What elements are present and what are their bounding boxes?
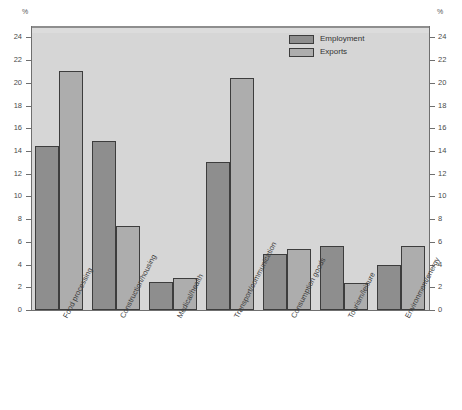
y-ticklabel-left-14: 14 (14, 147, 22, 155)
y-axis-unit-right: % (437, 8, 443, 15)
legend-label-exports: Exports (320, 48, 347, 56)
bar-employment-6[interactable] (320, 246, 344, 310)
y-ticklabel-right-22: 22 (438, 56, 446, 64)
y-ticklabel-left-22: 22 (14, 56, 22, 64)
y-ticklabel-left-6: 6 (18, 238, 22, 246)
y-ticklabel-left-20: 20 (14, 79, 22, 87)
x-axis-baseline (31, 310, 430, 311)
y-ticklabel-left-8: 8 (18, 215, 22, 223)
bar-exports-4[interactable] (230, 78, 254, 310)
bar-group-4 (206, 78, 254, 310)
bar-employment-4[interactable] (206, 162, 230, 310)
y-tick-right-10 (430, 196, 435, 197)
y-tick-right-16 (430, 128, 435, 129)
y-axis-unit-left: % (22, 8, 28, 15)
y-tick-right-0 (430, 310, 435, 311)
y-ticklabel-right-16: 16 (438, 124, 446, 132)
y-ticklabel-right-20: 20 (438, 79, 446, 87)
y-ticklabel-left-0: 0 (18, 306, 22, 314)
bar-group-1 (35, 71, 83, 310)
y-tick-right-8 (430, 219, 435, 220)
y-ticklabel-left-16: 16 (14, 124, 22, 132)
legend-item-exports: Exports (289, 46, 364, 58)
y-ticklabel-left-18: 18 (14, 102, 22, 110)
y-ticklabel-right-24: 24 (438, 33, 446, 41)
y-tick-right-24 (430, 37, 435, 38)
y-tick-right-2 (430, 287, 435, 288)
bar-exports-1[interactable] (59, 71, 83, 310)
y-ticklabel-right-12: 12 (438, 170, 446, 178)
y-ticklabel-right-18: 18 (438, 102, 446, 110)
legend-item-employment: Employment (289, 33, 364, 45)
y-tick-right-20 (430, 83, 435, 84)
legend-swatch-exports-icon (289, 48, 314, 57)
y-ticklabel-left-2: 2 (18, 283, 22, 291)
y-tick-right-12 (430, 174, 435, 175)
y-tick-right-22 (430, 60, 435, 61)
y-ticklabel-right-6: 6 (438, 238, 442, 246)
y-ticklabel-right-8: 8 (438, 215, 442, 223)
y-tick-right-14 (430, 151, 435, 152)
y-tick-left-0 (26, 310, 31, 311)
y-tick-right-6 (430, 242, 435, 243)
y-ticklabel-left-24: 24 (14, 33, 22, 41)
y-ticklabel-right-2: 2 (438, 283, 442, 291)
bar-employment-3[interactable] (149, 282, 173, 310)
y-ticklabel-right-10: 10 (438, 192, 446, 200)
bar-employment-7[interactable] (377, 265, 401, 310)
legend-swatch-employment-icon (289, 35, 314, 44)
bar-employment-1[interactable] (35, 146, 59, 310)
legend-label-employment: Employment (320, 35, 364, 43)
y-tick-right-18 (430, 106, 435, 107)
chart-legend: Employment Exports (285, 31, 368, 62)
y-ticklabel-left-12: 12 (14, 170, 22, 178)
bar-employment-2[interactable] (92, 141, 116, 310)
y-ticklabel-left-10: 10 (14, 192, 22, 200)
y-ticklabel-right-14: 14 (438, 147, 446, 155)
y-ticklabel-right-0: 0 (438, 306, 442, 314)
y-ticklabel-left-4: 4 (18, 261, 22, 269)
